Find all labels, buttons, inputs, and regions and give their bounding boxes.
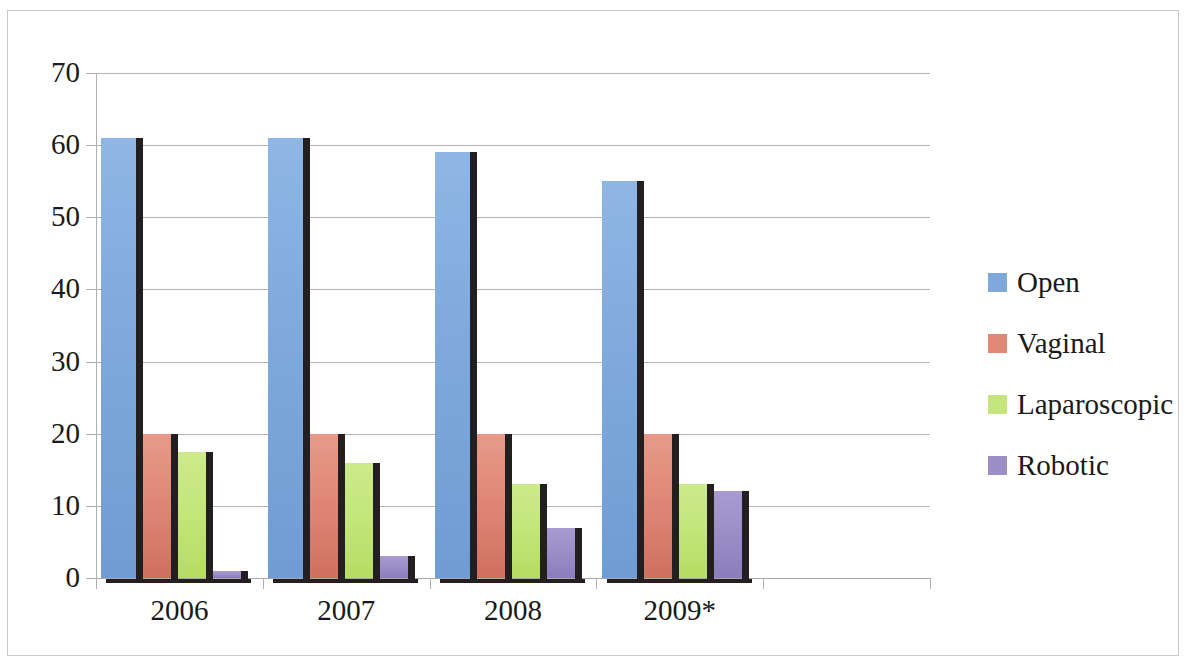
bar-3d-shadow xyxy=(206,452,213,582)
bar-3d-shadow xyxy=(303,138,310,582)
legend-item-robotic[interactable]: Robotic xyxy=(988,435,1178,496)
y-tick-mark xyxy=(86,289,96,290)
chart-legend: OpenVaginalLaparoscopicRobotic xyxy=(988,252,1178,496)
bar-fill xyxy=(602,181,637,578)
y-axis-label-10: 10 xyxy=(28,491,80,520)
legend-label-robotic: Robotic xyxy=(1017,451,1109,480)
bar-3d-shadow xyxy=(470,152,477,582)
bar-3d-shadow xyxy=(136,138,143,582)
bar-3d-shadow xyxy=(672,434,679,582)
bar-3d-shadow xyxy=(575,528,582,583)
bar-3d-shadow xyxy=(637,181,644,582)
plot-area xyxy=(96,73,930,578)
x-tick-mark xyxy=(930,578,931,589)
bar-3d-shadow xyxy=(742,491,749,582)
bar-open-2008[interactable] xyxy=(435,152,470,578)
bar-3d-shadow xyxy=(707,484,714,582)
legend-item-open[interactable]: Open xyxy=(988,252,1178,313)
bar-open-2007[interactable] xyxy=(268,138,303,578)
y-tick-mark xyxy=(86,578,96,579)
bar-3d-shadow xyxy=(241,571,248,582)
bar-open-2006[interactable] xyxy=(101,138,136,578)
bar-3d-shadow xyxy=(338,434,345,582)
bar-fill xyxy=(435,152,470,578)
x-tick-mark xyxy=(430,578,431,589)
y-tick-mark xyxy=(86,362,96,363)
legend-swatch-vaginal xyxy=(988,334,1007,353)
y-tick-mark xyxy=(86,145,96,146)
bar-3d-shadow xyxy=(373,463,380,582)
x-axis-line xyxy=(96,578,930,579)
y-tick-mark xyxy=(86,434,96,435)
x-tick-mark xyxy=(763,578,764,589)
bar-group-2007 xyxy=(268,73,416,578)
legend-item-vaginal[interactable]: Vaginal xyxy=(988,313,1178,374)
legend-swatch-laparoscopic xyxy=(988,395,1007,414)
x-axis-label-2007: 2007 xyxy=(263,594,430,627)
x-tick-mark xyxy=(596,578,597,589)
bar-open-2009[interactable] xyxy=(602,181,637,578)
y-axis-label-60: 60 xyxy=(28,130,80,159)
bar-group-2009 xyxy=(602,73,750,578)
x-axis-label-2006: 2006 xyxy=(96,594,263,627)
x-tick-mark xyxy=(263,578,264,589)
y-axis-label-50: 50 xyxy=(28,202,80,231)
x-axis-label-2009: 2009* xyxy=(596,594,763,627)
y-axis-label-70: 70 xyxy=(28,58,80,87)
y-axis-label-0: 0 xyxy=(28,563,80,592)
y-axis-label-40: 40 xyxy=(28,274,80,303)
bar-3d-shadow xyxy=(171,434,178,582)
y-axis-label-20: 20 xyxy=(28,419,80,448)
y-tick-mark xyxy=(86,506,96,507)
bar-fill xyxy=(101,138,136,578)
legend-label-open: Open xyxy=(1017,268,1080,297)
bar-3d-shadow xyxy=(408,556,415,582)
legend-item-laparoscopic[interactable]: Laparoscopic xyxy=(988,374,1178,435)
y-tick-mark xyxy=(86,217,96,218)
bar-fill xyxy=(268,138,303,578)
y-tick-mark xyxy=(86,73,96,74)
bar-group-2008 xyxy=(435,73,583,578)
bar-3d-shadow xyxy=(540,484,547,582)
bar-3d-shadow xyxy=(505,434,512,582)
bar-group-2006 xyxy=(101,73,249,578)
legend-swatch-open xyxy=(988,273,1007,292)
x-tick-mark xyxy=(96,578,97,589)
legend-swatch-robotic xyxy=(988,456,1007,475)
legend-label-laparoscopic: Laparoscopic xyxy=(1017,390,1173,419)
legend-label-vaginal: Vaginal xyxy=(1017,329,1106,358)
y-axis-label-30: 30 xyxy=(28,347,80,376)
x-axis-label-2008: 2008 xyxy=(430,594,597,627)
chart-container: 706050403020100 2006200720082009* OpenVa… xyxy=(0,0,1189,669)
